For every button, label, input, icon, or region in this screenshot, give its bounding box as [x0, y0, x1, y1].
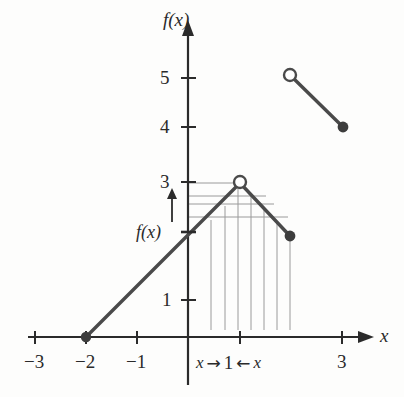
x-approaching-from-right-label: x: [254, 353, 262, 373]
hatch-vertical-lines: [211, 185, 290, 330]
x-axis-arrowhead: [358, 331, 374, 343]
closed-dot-falling-end: [285, 231, 296, 242]
curve-value-label: f(x): [136, 223, 161, 241]
y-tick-label-3: 3: [160, 172, 170, 191]
plot-canvas: [0, 0, 404, 397]
upper-branch: [290, 75, 343, 127]
x-approaching-from-left-label: x: [196, 353, 204, 373]
y-axis: [181, 20, 196, 385]
x-axis: [28, 331, 374, 344]
x-tick-label-minus-3: −3: [24, 352, 44, 371]
x-tick-label-minus-1: −1: [126, 352, 146, 371]
closed-dot-minus-two: [81, 332, 91, 342]
x-tick-label-3: 3: [337, 352, 347, 371]
y-axis-label: f(x): [163, 10, 189, 29]
f-of-x-value-arrow: [167, 188, 177, 222]
open-dot-peak: [234, 176, 246, 188]
rising-branch: [86, 183, 240, 337]
limit-point-label: 1: [224, 352, 234, 374]
y-tick-label-5: 5: [160, 68, 170, 87]
arrow-left-icon: ←: [236, 355, 250, 372]
falling-branch: [240, 183, 290, 236]
limit-approach-annotation: x → 1 ← x: [196, 352, 261, 374]
arrow-right-icon: →: [207, 355, 221, 372]
x-axis-label: x: [380, 326, 388, 345]
limit-graph-figure: f(x) x f(x) 5 4 3 1 −3 −2 −1 3 x → 1 ← x: [0, 0, 404, 397]
x-tick-label-minus-2: −2: [75, 352, 95, 371]
y-tick-label-1: 1: [162, 290, 172, 309]
function-curve: [86, 75, 343, 337]
closed-dot-upper-end: [338, 122, 349, 133]
y-tick-label-4: 4: [160, 117, 170, 136]
open-dot-upper-start: [284, 69, 296, 81]
